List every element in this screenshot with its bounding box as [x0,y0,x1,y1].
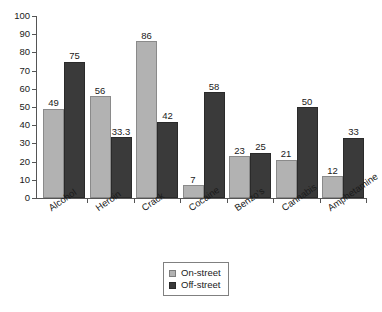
legend-label-off-street: Off-street [181,280,220,290]
legend-swatch-off-street-icon [169,282,176,289]
x-tick-mark [320,198,321,203]
grouped-bar-chart: 0102030405060708090100 49755633.38642758… [0,0,382,312]
x-tick-mark [180,198,181,203]
bar-off-street-alcohol: 75 [64,62,85,199]
bar-on-street-alcohol: 49 [43,109,64,198]
bar-value-label: 42 [162,111,173,121]
legend-item-on-street: On-street [169,267,221,279]
y-tick-label: 80 [19,48,30,58]
y-tick-label: 20 [19,157,30,167]
y-tick-mark [32,34,37,35]
y-tick-label: 40 [19,120,30,130]
y-tick-mark [32,198,37,199]
bar-on-street-benzo-s: 23 [229,156,250,198]
y-tick-label: 70 [19,66,30,76]
x-tick-mark [227,198,228,203]
bar-value-label: 21 [281,149,292,159]
y-tick-mark [32,180,37,181]
bar-value-label: 58 [209,82,220,92]
bar-value-label: 86 [141,31,152,41]
x-tick-mark [87,198,88,203]
plot-area: 0102030405060708090100 49755633.38642758… [36,16,366,198]
y-tick-mark [32,16,37,17]
y-tick-label: 90 [19,29,30,39]
y-tick-mark [32,107,37,108]
y-tick-label: 100 [14,11,30,21]
y-tick-mark [32,52,37,53]
bar-value-label: 25 [255,142,266,152]
x-tick-mark [134,198,135,203]
bar-value-label: 56 [95,86,106,96]
bar-on-street-heroin: 56 [90,96,111,198]
bar-value-label: 12 [327,166,338,176]
x-tick-mark [366,198,367,203]
chart-legend: On-street Off-street [163,262,229,296]
y-tick-mark [32,143,37,144]
legend-swatch-on-street-icon [169,270,176,277]
bar-on-street-cannabis: 21 [276,160,297,198]
bar-off-street-cocaine: 58 [204,92,225,198]
y-tick-mark [32,125,37,126]
y-tick-mark [32,162,37,163]
bar-value-label: 33 [348,127,359,137]
y-tick-label: 60 [19,84,30,94]
y-tick-label: 0 [25,193,30,203]
bar-value-label: 23 [234,146,245,156]
bar-value-label: 50 [302,97,313,107]
y-tick-label: 50 [19,102,30,112]
bar-off-street-crack: 42 [157,122,178,198]
y-tick-mark [32,71,37,72]
legend-item-off-street: Off-street [169,279,221,291]
bar-value-label: 33.3 [112,127,131,137]
legend-label-on-street: On-street [181,268,221,278]
bar-value-label: 7 [190,175,195,185]
bar-on-street-crack: 86 [136,41,157,198]
y-tick-label: 10 [19,175,30,185]
bar-value-label: 75 [69,51,80,61]
y-tick-mark [32,89,37,90]
bar-value-label: 49 [48,98,59,108]
x-tick-mark [273,198,274,203]
y-tick-label: 30 [19,139,30,149]
